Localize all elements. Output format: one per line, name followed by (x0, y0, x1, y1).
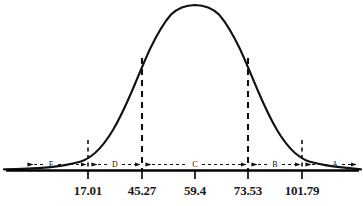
region-label-f: F (41, 160, 61, 170)
tick-label-45-27: 45.27 (112, 183, 172, 199)
tick-label-59-4: 59.4 (165, 183, 225, 199)
distribution-chart-svg (0, 0, 363, 206)
tick-label-101-79: 101.79 (270, 183, 334, 199)
region-label-b: B (265, 160, 285, 170)
region-label-c: C (185, 160, 205, 170)
region-label-d: D (105, 160, 125, 170)
tick-label-17-01: 17.01 (58, 183, 118, 199)
tick-label-73-53: 73.53 (218, 183, 278, 199)
normal-distribution-curve (4, 5, 361, 169)
region-label-a: A (325, 160, 345, 170)
normal-curve-figure: F D C B A 17.01 45.27 59.4 73.53 101.79 (0, 0, 363, 206)
